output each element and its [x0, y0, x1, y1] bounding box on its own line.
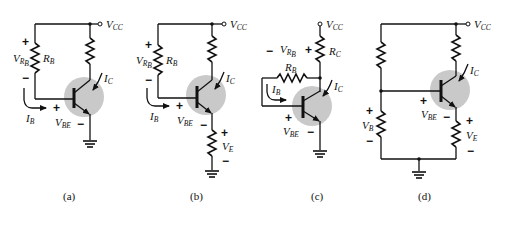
caption-d: (d) [418, 190, 431, 203]
base-resistor-rb [31, 43, 39, 73]
vcc-terminal [466, 22, 470, 26]
ib-label: IB [25, 112, 35, 126]
vcc-terminal [98, 22, 102, 26]
vcc-terminal [318, 22, 322, 26]
rb-minus: − [22, 71, 29, 85]
ve-plus: + [221, 126, 228, 140]
vcc-label: VCC [106, 18, 124, 32]
ground-symbol [83, 141, 97, 147]
vbe-minus: − [77, 117, 84, 131]
ve-label: VE [222, 140, 234, 154]
rb-plus: + [145, 38, 152, 52]
collector-resistor [452, 35, 460, 61]
vrb-plus: + [305, 43, 312, 57]
ground-symbol [412, 172, 426, 178]
vrb-label: VRB [13, 52, 29, 68]
transistor-highlight [430, 70, 470, 110]
ic-label: IC [225, 72, 236, 86]
ve-minus: − [222, 154, 229, 168]
vbe-plus: + [53, 101, 60, 115]
panel-b: VCC + − VRB RB + VE − IC IB [136, 18, 248, 203]
rb-plus: + [22, 35, 29, 49]
voltage-divider-r1 [377, 42, 385, 68]
ve-plus: + [466, 114, 473, 128]
panel-d: VCC + VB − + VE − [362, 18, 492, 203]
vbe-minus: − [443, 110, 450, 124]
collector-resistor [86, 38, 94, 64]
ve-label: VE [466, 129, 478, 143]
rb-label: RB [42, 52, 55, 66]
ic-label: IC [469, 64, 480, 78]
panel-c: VCC RC − VRB + RB IC IB + VBE − [262, 18, 344, 203]
vbe-minus: − [200, 118, 207, 132]
vrb-label: VRB [136, 54, 152, 70]
vcc-label: VCC [474, 18, 492, 32]
emitter-resistor [452, 121, 460, 147]
ground-symbol [313, 151, 327, 157]
ib-label: IB [149, 110, 159, 124]
collector-resistor-rc [316, 36, 324, 62]
vbe-label: VBE [421, 108, 437, 122]
vbe-minus: − [307, 125, 314, 139]
vb-label: VB [362, 119, 374, 133]
caption-a: (a) [63, 190, 76, 203]
base-resistor-rb [154, 45, 162, 75]
bjt-bias-circuits-figure: VCC + − VRB RB IC IB + VBE − [0, 0, 508, 225]
vbe-plus: + [420, 94, 427, 108]
vrb-minus: − [266, 44, 273, 58]
ve-minus: − [467, 144, 474, 158]
vbe-plus: + [176, 99, 183, 113]
rb-label: RB [284, 61, 297, 75]
rc-label: RC [328, 45, 342, 59]
vbe-plus: + [285, 111, 292, 125]
ib-label: IB [271, 83, 281, 97]
vb-minus: − [366, 134, 373, 148]
vcc-terminal [222, 22, 226, 26]
vcc-label: VCC [326, 18, 344, 32]
collector-resistor [208, 36, 216, 62]
caption-b: (b) [190, 190, 203, 203]
vrb-label: VRB [280, 43, 296, 59]
base-resistor-rb [277, 74, 307, 82]
vcc-label: VCC [230, 18, 248, 32]
vbe-label: VBE [55, 116, 71, 130]
caption-c: (c) [311, 190, 324, 203]
panel-a: VCC + − VRB RB IC IB + VBE − [13, 18, 124, 203]
ic-label: IC [103, 72, 114, 86]
ic-label: IC [333, 80, 344, 94]
emitter-resistor [208, 130, 216, 156]
rb-minus: − [145, 73, 152, 87]
vb-plus: + [366, 104, 373, 118]
vbe-label: VBE [283, 125, 299, 139]
ground-symbol [205, 171, 219, 177]
vbe-label: VBE [177, 114, 193, 128]
voltage-divider-r2 [377, 111, 385, 137]
rb-label: RB [165, 54, 178, 68]
